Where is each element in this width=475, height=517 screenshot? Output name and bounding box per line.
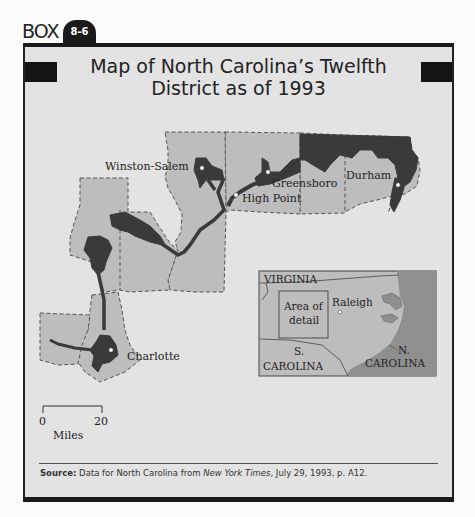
source-publication: New York Times [203,468,270,478]
inset-label-sc-1: S. [294,345,304,357]
raleigh-dot [338,310,342,314]
inset-label-detail: detail [289,314,320,326]
figure-box: Map of North Carolina’s Twelfth District… [23,43,454,502]
district-map: Winston-Salem High Point Greensboro Durh… [25,47,452,497]
source-label: Source: [40,468,76,478]
inset-map: VIRGINIA Area of detail Raleigh S. CAROL… [259,271,436,376]
scale-unit: Miles [53,429,84,442]
source-note: Source: Data for North Carolina from New… [40,468,367,478]
source-text-pre: Data for North Carolina from [76,468,203,478]
scale-start: 0 [39,415,46,428]
durham-dot [396,183,400,187]
charlotte-dot [109,348,113,352]
source-divider [39,463,438,464]
inset-label-sc-2: CAROLINA [263,360,323,372]
inset-label-raleigh: Raleigh [332,296,373,308]
city-label-high-point: High Point [242,192,302,205]
greensboro-dot [266,170,270,174]
city-label-greensboro: Greensboro [272,177,338,190]
inset-label-virginia: VIRGINIA [263,273,318,285]
box-label: BOX [22,20,58,42]
inset-label-nc-1: N. [398,344,410,356]
inset-label-nc-2: CAROLINA [365,357,425,369]
city-label-durham: Durham [346,169,392,182]
winston-salem-dot [200,166,204,170]
scale-bar [43,406,102,413]
scale-end: 20 [94,415,108,428]
high-point-dot [234,193,238,197]
source-text-post: , July 29, 1993, p. A12. [270,468,367,478]
city-label-charlotte: Charlotte [127,350,180,363]
inset-label-area-of: Area of [283,300,324,312]
city-label-winston-salem: Winston-Salem [105,160,189,173]
